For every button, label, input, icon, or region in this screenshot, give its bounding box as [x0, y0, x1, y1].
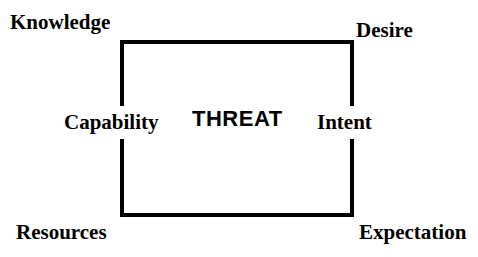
box-edge-top: [120, 40, 354, 44]
label-intent: Intent: [313, 106, 376, 139]
threat-diagram: Knowledge Desire Resources Expectation C…: [0, 0, 478, 257]
label-expectation: Expectation: [359, 222, 466, 243]
label-threat-center: THREAT: [192, 108, 283, 130]
label-resources: Resources: [16, 222, 107, 243]
label-desire: Desire: [356, 20, 413, 41]
box-edge-bottom: [120, 213, 354, 217]
label-knowledge: Knowledge: [10, 12, 110, 33]
label-capability: Capability: [60, 106, 163, 139]
